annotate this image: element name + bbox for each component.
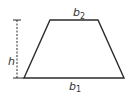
trapezoid-shape [24,20,124,78]
trapezoid-diagram: b2 b1 h [0,0,132,93]
height-marker [13,20,24,78]
top-base-label: b2 [73,6,85,21]
height-label: h [8,55,15,68]
bottom-base-label: b1 [69,80,81,93]
